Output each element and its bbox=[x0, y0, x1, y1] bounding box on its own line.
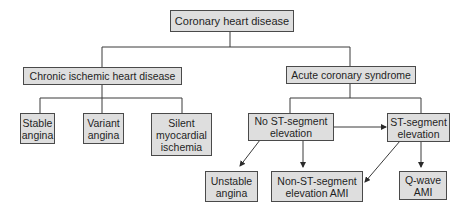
node-label: Unstable angina bbox=[211, 175, 252, 199]
node-label: Silent myocardial ischemia bbox=[156, 117, 207, 153]
node-unstable-angina: Unstable angina bbox=[205, 171, 258, 202]
arrow-st-to-nstemi bbox=[365, 141, 400, 182]
node-stable-angina: Stable angina bbox=[20, 113, 55, 144]
node-label: Chronic ischemic heart disease bbox=[30, 70, 176, 82]
node-no-st-segment-elevation: No ST-segment elevation bbox=[248, 113, 334, 141]
node-label: Acute coronary syndrome bbox=[291, 69, 411, 81]
node-label: ST-segment elevation bbox=[390, 116, 447, 140]
node-label: Stable angina bbox=[22, 117, 54, 141]
node-st-segment-elevation: ST-segment elevation bbox=[387, 113, 450, 142]
arrow-no-st-to-unstable bbox=[240, 140, 260, 166]
node-label: Coronary heart disease bbox=[175, 15, 289, 27]
node-label: No ST-segment elevation bbox=[255, 115, 328, 139]
node-q-wave-ami: Q-wave AMI bbox=[399, 171, 447, 200]
node-acute-coronary-syndrome: Acute coronary syndrome bbox=[286, 66, 416, 84]
node-label: Variant angina bbox=[87, 117, 120, 141]
node-label: Non-ST-segment elevation AMI bbox=[277, 175, 356, 199]
node-chronic-ischemic-heart-disease: Chronic ischemic heart disease bbox=[23, 67, 182, 85]
node-non-st-segment-elevation-ami: Non-ST-segment elevation AMI bbox=[271, 171, 363, 202]
node-label: Q-wave AMI bbox=[405, 174, 441, 198]
node-coronary-heart-disease: Coronary heart disease bbox=[170, 10, 294, 32]
node-silent-myocardial-ischemia: Silent myocardial ischemia bbox=[151, 113, 212, 156]
node-variant-angina: Variant angina bbox=[83, 113, 124, 144]
